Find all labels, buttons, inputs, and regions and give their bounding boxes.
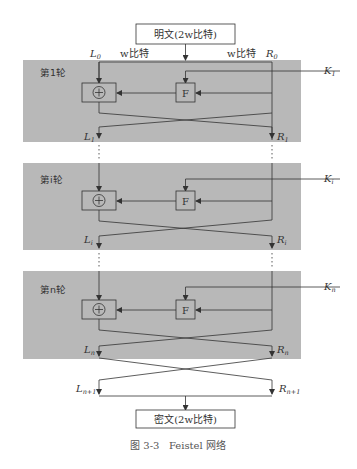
svg-text:F: F xyxy=(182,305,189,316)
key-Ki: Ki xyxy=(323,173,334,186)
label-Ln1: Ln+1 xyxy=(75,383,96,396)
round-i-label: 第i轮 xyxy=(40,174,63,185)
svg-text:密文(2w比特): 密文(2w比特) xyxy=(154,413,217,425)
round-i-panel xyxy=(23,163,301,250)
round-n-f-function: F xyxy=(176,300,195,319)
label-R0: R0 xyxy=(265,48,278,61)
round-n-label: 第n轮 xyxy=(40,284,66,295)
figure-caption: 图 3-3 Feistel 网络 xyxy=(130,439,226,451)
label-Rn1: Rn+1 xyxy=(278,383,300,396)
svg-text:F: F xyxy=(182,196,189,207)
round-n-xor xyxy=(82,300,116,319)
label-L0: L0 xyxy=(89,48,101,61)
plaintext-box: 明文(2w比特) xyxy=(136,24,235,44)
left-width-label: w比特 xyxy=(120,48,149,59)
round-1-label: 第1轮 xyxy=(40,67,66,78)
round-1-f-function: F xyxy=(176,83,195,102)
right-width-label: w比特 xyxy=(227,48,256,59)
round-1-xor xyxy=(82,83,116,102)
svg-text:F: F xyxy=(182,88,189,99)
key-K1: K1 xyxy=(323,65,336,78)
key-Kn: Kn xyxy=(323,281,336,294)
feistel-diagram: 明文(2w比特) xyxy=(0,0,357,469)
ciphertext-box: 密文(2w比特) xyxy=(136,410,235,428)
round-i-xor xyxy=(82,191,116,210)
round-i-f-function: F xyxy=(176,191,195,210)
svg-text:明文(2w比特): 明文(2w比特) xyxy=(154,28,217,40)
